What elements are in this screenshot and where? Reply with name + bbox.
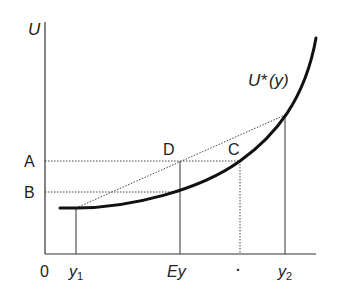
curve-label-arg: (y) <box>269 71 289 90</box>
origin-label: 0 <box>40 263 49 280</box>
tick-ey-label: Ey <box>167 263 187 280</box>
y-axis-label: U <box>28 20 41 39</box>
point-d-label: D <box>163 141 175 158</box>
tick-a-label: A <box>24 153 35 170</box>
curve-label: U*(y) <box>248 71 289 90</box>
curve-label-main: U* <box>248 71 268 90</box>
expected-utility-diagram: U A B D C U*(y) 0 y1 Ey · y2 <box>0 0 346 296</box>
tick-b-label: B <box>24 184 35 201</box>
tick-ce-label: · <box>236 262 241 278</box>
utility-curve <box>60 38 316 208</box>
point-c-label: C <box>228 141 240 158</box>
tick-y2-label: y2 <box>277 263 292 282</box>
tick-y1-sub: 1 <box>77 270 83 282</box>
tick-y1-label: y1 <box>68 263 83 282</box>
tick-y2-sub: 2 <box>286 270 292 282</box>
